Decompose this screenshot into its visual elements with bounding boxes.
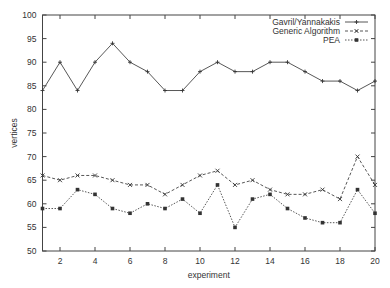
square-marker-icon bbox=[111, 207, 115, 211]
square-marker-icon bbox=[268, 193, 272, 197]
plus-marker-icon bbox=[286, 60, 290, 64]
y-tick-label: 75 bbox=[27, 128, 37, 138]
cross-marker-icon bbox=[321, 188, 325, 192]
square-marker-icon bbox=[146, 202, 150, 206]
legend-entry: Generic Algorithm bbox=[272, 26, 368, 36]
square-marker-icon bbox=[373, 211, 377, 215]
square-marker-icon bbox=[321, 221, 325, 225]
x-tick-label: 14 bbox=[265, 256, 275, 266]
legend-entry: PEA bbox=[323, 35, 368, 45]
y-tick-label: 90 bbox=[27, 57, 37, 67]
y-tick-label: 85 bbox=[27, 81, 37, 91]
y-tick-label: 55 bbox=[27, 222, 37, 232]
square-marker-icon bbox=[93, 193, 97, 197]
plus-marker-icon bbox=[356, 89, 360, 93]
square-marker-icon bbox=[251, 197, 255, 201]
plus-marker-icon bbox=[338, 79, 342, 83]
square-marker-icon bbox=[338, 221, 342, 225]
square-marker-icon bbox=[356, 188, 360, 192]
cross-marker-icon bbox=[233, 183, 237, 187]
cross-marker-icon bbox=[356, 155, 360, 159]
legend-label: PEA bbox=[323, 35, 340, 45]
plus-marker-icon bbox=[233, 70, 237, 74]
plus-marker-icon bbox=[251, 70, 255, 74]
cross-marker-icon bbox=[181, 183, 185, 187]
series-line bbox=[43, 157, 376, 199]
plus-marker-icon bbox=[41, 89, 45, 93]
cross-marker-icon bbox=[251, 178, 255, 182]
plot-frame bbox=[43, 15, 376, 251]
series-generic-algorithm bbox=[41, 155, 378, 201]
square-marker-icon bbox=[163, 207, 167, 211]
series-pea bbox=[41, 183, 377, 229]
square-marker-icon bbox=[128, 211, 132, 215]
y-tick-label: 70 bbox=[27, 152, 37, 162]
x-tick-label: 8 bbox=[163, 256, 168, 266]
cross-marker-icon bbox=[163, 192, 167, 196]
square-marker-icon bbox=[303, 216, 307, 220]
x-tick-label: 4 bbox=[93, 256, 98, 266]
y-tick-label: 95 bbox=[27, 34, 37, 44]
plus-marker-icon bbox=[373, 79, 377, 83]
cross-marker-icon bbox=[198, 173, 202, 177]
series-gavril-yannakakis bbox=[41, 41, 378, 92]
cross-marker-icon bbox=[338, 197, 342, 201]
plus-marker-icon bbox=[303, 70, 307, 74]
cross-marker-icon bbox=[216, 169, 220, 173]
square-marker-icon bbox=[181, 197, 185, 201]
plus-marker-icon bbox=[58, 60, 62, 64]
x-tick-label: 12 bbox=[230, 256, 240, 266]
square-marker-icon bbox=[233, 226, 237, 230]
x-tick-label: 10 bbox=[195, 256, 205, 266]
y-tick-label: 65 bbox=[27, 175, 37, 185]
y-axis-label: vertices bbox=[9, 118, 19, 147]
square-marker-icon bbox=[58, 207, 62, 211]
x-tick-label: 2 bbox=[58, 256, 63, 266]
square-marker-icon bbox=[41, 207, 45, 211]
y-tick-label: 50 bbox=[27, 246, 37, 256]
square-marker-icon bbox=[76, 188, 80, 192]
x-tick-label: 20 bbox=[370, 256, 380, 266]
x-axis-label: experiment bbox=[188, 270, 231, 280]
y-tick-label: 60 bbox=[27, 199, 37, 209]
x-tick-label: 16 bbox=[300, 256, 310, 266]
x-tick-label: 6 bbox=[128, 256, 133, 266]
square-marker-icon bbox=[286, 207, 290, 211]
square-marker-icon bbox=[216, 183, 220, 187]
plus-marker-icon bbox=[355, 20, 359, 24]
plus-marker-icon bbox=[321, 79, 325, 83]
plus-marker-icon bbox=[76, 89, 80, 93]
plus-marker-icon bbox=[216, 60, 220, 64]
y-tick-label: 100 bbox=[22, 10, 36, 20]
series-line bbox=[43, 43, 376, 90]
plot-axes: 505560657075808590951002468101214161820e… bbox=[9, 10, 380, 280]
square-marker-icon bbox=[198, 211, 202, 215]
square-marker-icon bbox=[355, 38, 359, 42]
line-chart: 505560657075808590951002468101214161820e… bbox=[0, 0, 390, 288]
x-tick-label: 18 bbox=[335, 256, 345, 266]
plus-marker-icon bbox=[268, 60, 272, 64]
y-tick-label: 80 bbox=[27, 104, 37, 114]
